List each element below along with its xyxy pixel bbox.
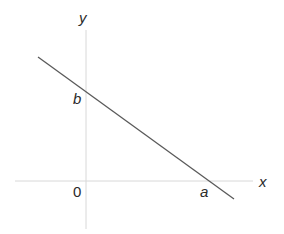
y-intercept-label: b [73,91,81,106]
x-axis-label: x [259,174,267,189]
x-intercept-label: a [200,184,208,199]
origin-label: 0 [73,184,81,199]
diagram-canvas [0,0,284,234]
intercept-line [38,57,234,199]
y-axis-label: y [79,10,87,25]
